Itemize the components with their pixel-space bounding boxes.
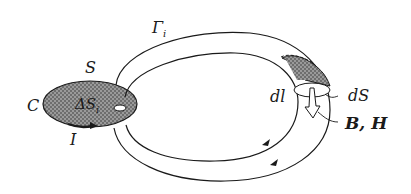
direction-arrow-outer-icon <box>270 159 278 166</box>
diagram-canvas: Γi S C ΔSi I dl dS B, H <box>0 0 411 194</box>
label-current-i: I <box>70 132 76 148</box>
label-surface-s: S <box>85 60 96 76</box>
label-dl: dl <box>270 89 285 105</box>
label-delta-s: ΔSi <box>75 97 99 115</box>
label-gamma: Γi <box>152 20 166 39</box>
tube-inner-wall <box>125 53 298 161</box>
label-ds: dS <box>348 88 369 104</box>
tube-cross-section-at-disk <box>114 105 126 111</box>
label-contour-c: C <box>27 98 39 114</box>
direction-arrow-inner-icon <box>262 139 270 146</box>
label-b-h: B, H <box>345 115 387 132</box>
